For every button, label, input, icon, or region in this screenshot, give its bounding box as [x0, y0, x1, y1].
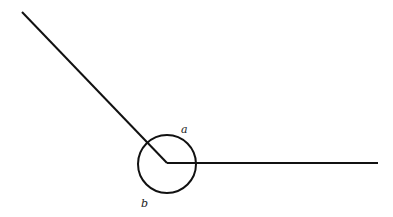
- label-a: a: [181, 123, 188, 136]
- label-b: b: [141, 197, 148, 210]
- angle-diagram: a b: [0, 0, 393, 217]
- ray-upper-left: [22, 12, 167, 163]
